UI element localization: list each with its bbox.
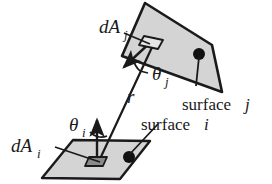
label-theta-j-subscript: j (163, 74, 169, 89)
label-dA-j: dA j (99, 16, 128, 42)
label-surface-i: surface i (141, 115, 209, 134)
label-theta-i: θ i (69, 114, 86, 140)
point-marker-surface-i (123, 151, 135, 163)
figure-canvas: dA j θ j r surface j surface i θ i dA i (0, 0, 272, 184)
label-dA-i-subscript: i (37, 146, 41, 161)
label-theta-j-main: θ (152, 63, 161, 84)
label-surface-i-main: surface (141, 115, 190, 134)
label-distance-r: r (127, 86, 135, 107)
label-dA-j-subscript: j (122, 27, 128, 42)
label-surface-j-subscript: j (243, 95, 250, 114)
label-theta-i-subscript: i (82, 125, 86, 140)
label-surface-i-subscript: i (204, 115, 209, 134)
label-surface-j: surface j (182, 95, 250, 114)
label-dA-i-main: dA (11, 135, 33, 156)
label-dA-j-main: dA (99, 16, 121, 37)
diagram-svg: dA j θ j r surface j surface i θ i dA i (0, 0, 272, 184)
label-theta-i-main: θ (69, 114, 78, 135)
label-dA-i: dA i (11, 135, 41, 161)
angle-arc-theta-i (90, 132, 107, 137)
label-surface-j-main: surface (182, 95, 231, 114)
